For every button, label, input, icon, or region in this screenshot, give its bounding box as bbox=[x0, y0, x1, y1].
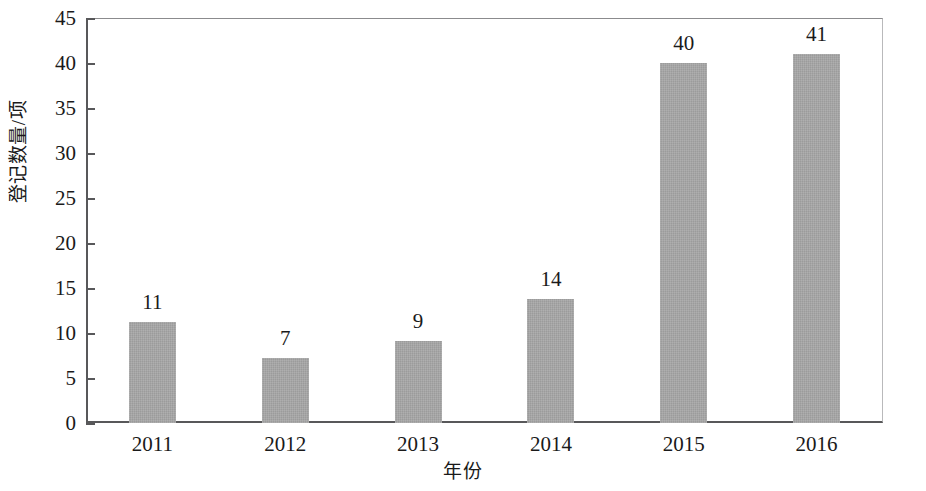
bar-value-label: 11 bbox=[102, 290, 202, 314]
y-axis-tick-label: 25 bbox=[26, 185, 76, 211]
bar bbox=[129, 322, 176, 423]
bar bbox=[793, 54, 840, 423]
y-axis-tick-mark bbox=[86, 18, 95, 20]
y-axis-tick-mark bbox=[86, 63, 95, 65]
x-axis-tick-label: 2015 bbox=[624, 431, 744, 457]
y-axis-tick-label: 35 bbox=[26, 95, 76, 121]
y-axis-tick-label: 30 bbox=[26, 140, 76, 166]
y-axis-tick-mark bbox=[86, 153, 95, 155]
bar-value-label: 7 bbox=[235, 326, 335, 350]
bar-value-label: 14 bbox=[501, 267, 601, 291]
y-axis-tick-label: 5 bbox=[26, 365, 76, 391]
plot-area-frame bbox=[86, 18, 883, 423]
y-axis-title: 登记数量/项 bbox=[9, 72, 28, 232]
x-axis-tick-label: 2013 bbox=[358, 431, 478, 457]
x-axis-tick-label: 2012 bbox=[225, 431, 345, 457]
y-axis-tick-mark bbox=[86, 423, 95, 425]
bar-value-label: 41 bbox=[767, 22, 867, 46]
y-axis-tick-mark bbox=[86, 288, 95, 290]
y-axis-tick-label: 0 bbox=[26, 410, 76, 436]
x-axis-title: 年份 bbox=[0, 462, 926, 481]
y-axis-tick-mark bbox=[86, 378, 95, 380]
y-axis-tick-mark bbox=[86, 108, 95, 110]
y-axis-tick-mark bbox=[86, 243, 95, 245]
bar bbox=[660, 63, 707, 423]
y-axis-tick-mark bbox=[86, 333, 95, 335]
bar-chart: 登记数量/项 051015202530354045 1179144041 201… bbox=[0, 0, 926, 491]
bar-value-label: 9 bbox=[368, 309, 468, 333]
y-axis-tick-mark bbox=[86, 198, 95, 200]
bar bbox=[527, 299, 574, 423]
x-axis-tick-label: 2014 bbox=[491, 431, 611, 457]
y-axis-tick-label: 15 bbox=[26, 275, 76, 301]
y-axis-tick-label: 10 bbox=[26, 320, 76, 346]
x-axis-tick-label: 2011 bbox=[92, 431, 212, 457]
bar bbox=[395, 341, 442, 423]
y-axis-tick-label: 40 bbox=[26, 50, 76, 76]
y-axis-tick-label: 20 bbox=[26, 230, 76, 256]
x-axis-tick-label: 2016 bbox=[757, 431, 877, 457]
y-axis-tick-label: 45 bbox=[26, 5, 76, 31]
bar bbox=[262, 358, 309, 423]
bar-value-label: 40 bbox=[634, 31, 734, 55]
